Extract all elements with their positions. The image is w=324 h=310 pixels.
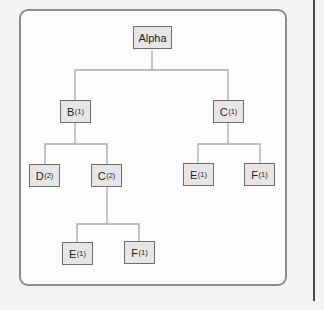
node-label: Alpha bbox=[138, 32, 166, 44]
node-label: F bbox=[131, 247, 138, 259]
node-label: E bbox=[190, 169, 197, 181]
node-subscript: (2) bbox=[44, 171, 53, 180]
tree-node-e1r: E(1) bbox=[183, 163, 214, 186]
node-subscript: (1) bbox=[75, 107, 84, 116]
tree-node-d2: D(2) bbox=[29, 164, 60, 187]
tree-node-f1r: F(1) bbox=[244, 163, 275, 186]
node-label: B bbox=[67, 106, 74, 118]
tree-node-alpha: Alpha bbox=[133, 26, 172, 49]
node-subscript: (2) bbox=[106, 171, 115, 180]
node-label: F bbox=[251, 169, 258, 181]
node-subscript: (1) bbox=[77, 249, 86, 258]
node-label: D bbox=[36, 170, 44, 182]
tree-node-e1b: E(1) bbox=[62, 242, 93, 265]
tree-node-c1: C(1) bbox=[213, 100, 244, 123]
node-label: C bbox=[220, 106, 228, 118]
tree-node-f1b: F(1) bbox=[124, 241, 155, 264]
node-subscript: (1) bbox=[198, 170, 207, 179]
node-subscript: (1) bbox=[259, 170, 268, 179]
node-label: C bbox=[98, 170, 106, 182]
tree-node-b1: B(1) bbox=[60, 100, 91, 123]
node-label: E bbox=[69, 248, 76, 260]
tree-node-c2: C(2) bbox=[91, 164, 122, 187]
node-subscript: (1) bbox=[228, 107, 237, 116]
node-subscript: (1) bbox=[139, 248, 148, 257]
